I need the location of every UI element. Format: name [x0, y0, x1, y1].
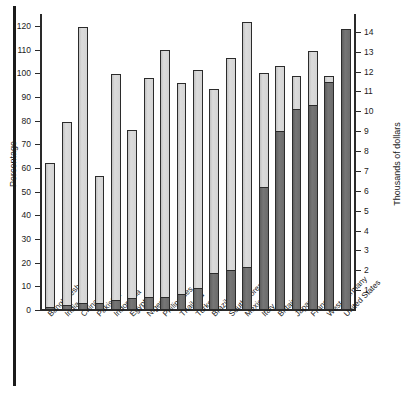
y-axis-left-tick-label: 30: [9, 235, 31, 244]
bar-group: [91, 14, 107, 310]
y-axis-left-tick: [35, 286, 42, 287]
bar-dollars: [177, 294, 187, 310]
y-axis-left-tick-label: 90: [9, 93, 31, 102]
bar-dollars: [292, 109, 302, 310]
y-axis-right-tick: [354, 171, 361, 172]
bar-dollars: [193, 288, 203, 310]
bar-group: [141, 14, 157, 310]
y-axis-left-tick-label: 10: [9, 282, 31, 291]
y-axis-left-tick-label: 110: [9, 46, 31, 55]
bar-group: [75, 14, 91, 310]
bar-dollars: [111, 300, 121, 310]
y-axis-left-tick: [35, 144, 42, 145]
bar-percentage: [144, 78, 154, 310]
y-axis-left-tick: [35, 239, 42, 240]
y-axis-right-tick: [354, 32, 361, 33]
bar-dollars: [275, 131, 285, 310]
bar-dollars: [242, 267, 252, 310]
y-axis-left-tick-label: 0: [9, 306, 31, 315]
bar-percentage: [177, 83, 187, 310]
y-axis-right-tick-label: 2: [364, 266, 384, 275]
bar-dollars: [45, 307, 55, 310]
y-axis-right-tick-label: 11: [364, 87, 384, 96]
bar-dollars: [95, 303, 105, 310]
y-axis-left-tick: [35, 263, 42, 264]
y-axis-right-tick-label: 5: [364, 207, 384, 216]
y-axis-left-tick: [35, 310, 42, 311]
bar-group: [124, 14, 140, 310]
bar-group: [305, 14, 321, 310]
bar-group: [223, 14, 239, 310]
bar-dollars: [341, 29, 351, 310]
bar-group: [338, 14, 354, 310]
y-axis-left-tick-label: 40: [9, 211, 31, 220]
y-axis-left-tick: [35, 192, 42, 193]
bar-dollars: [127, 298, 137, 310]
y-axis-left-tick: [35, 97, 42, 98]
y-axis-left-tick: [35, 73, 42, 74]
y-axis-right-tick-label: 12: [364, 68, 384, 77]
bar-percentage: [111, 74, 121, 310]
bar-dollars: [78, 303, 88, 310]
bar-dollars: [226, 270, 236, 310]
bar-percentage: [160, 50, 170, 310]
y-axis-left-tick: [35, 121, 42, 122]
y-axis-right-tick: [354, 52, 361, 53]
y-axis-right-tick: [354, 131, 361, 132]
x-axis-category-labels: BangladeshIndiaChinaPakistanIndonesiaEgy…: [40, 312, 356, 398]
y-axis-right-tick: [354, 91, 361, 92]
y-axis-right-tick-label: 9: [364, 127, 384, 136]
y-axis-left-tick: [35, 26, 42, 27]
bar-group: [255, 14, 271, 310]
y-axis-right-tick: [354, 231, 361, 232]
bar-percentage: [78, 27, 88, 310]
y-axis-left-tick: [35, 215, 42, 216]
y-axis-right-tick-label: 14: [364, 28, 384, 37]
y-axis-right-tick-label: 6: [364, 187, 384, 196]
y-axis-right-tick: [354, 151, 361, 152]
bar-dollars: [324, 82, 334, 310]
bar-group: [42, 14, 58, 310]
bar-group: [190, 14, 206, 310]
y-axis-right-title: Thousands of dollars: [392, 122, 402, 206]
y-axis-left-tick: [35, 168, 42, 169]
bar-percentage: [95, 176, 105, 310]
bar-group: [108, 14, 124, 310]
y-axis-left-tick-label: 80: [9, 117, 31, 126]
y-axis-left-tick-label: 20: [9, 259, 31, 268]
y-axis-right-tick-label: 4: [364, 227, 384, 236]
y-axis-right-tick-label: 8: [364, 147, 384, 156]
y-axis-right-tick-label: 3: [364, 246, 384, 255]
y-axis-right-tick-label: 13: [364, 48, 384, 57]
bar-group: [157, 14, 173, 310]
y-axis-right-tick-label: 10: [364, 107, 384, 116]
y-axis-right-tick: [354, 211, 361, 212]
bar-dollars: [160, 297, 170, 310]
y-axis-left-title: Percentage: [8, 141, 18, 187]
y-axis-right-tick: [354, 250, 361, 251]
bar-group: [206, 14, 222, 310]
bar-percentage: [127, 130, 137, 310]
y-axis-right-tick: [354, 72, 361, 73]
y-axis-right-tick: [354, 191, 361, 192]
bar-series-group: [42, 14, 354, 310]
bar-group: [58, 14, 74, 310]
y-axis-left-tick-label: 50: [9, 188, 31, 197]
bar-percentage: [45, 163, 55, 310]
bar-percentage: [193, 70, 203, 310]
bar-dollars: [209, 273, 219, 310]
y-axis-right-tick: [354, 111, 361, 112]
y-axis-left-tick: [35, 50, 42, 51]
y-axis-left-tick-label: 120: [9, 22, 31, 31]
y-axis-right-tick: [354, 270, 361, 271]
bar-group: [321, 14, 337, 310]
bar-percentage: [62, 122, 72, 310]
y-axis-right-tick-label: 7: [364, 167, 384, 176]
bar-group: [239, 14, 255, 310]
chart-container: 0102030405060708090100110120 12345678910…: [0, 0, 416, 400]
bar-group: [173, 14, 189, 310]
bar-dollars: [259, 187, 269, 310]
y-axis-left-tick-label: 100: [9, 69, 31, 78]
bar-group: [288, 14, 304, 310]
bar-dollars: [62, 305, 72, 310]
